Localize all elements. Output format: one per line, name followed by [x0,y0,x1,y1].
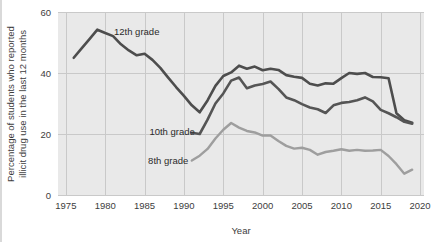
x-tick-label: 1985 [134,200,155,211]
y-tick-label: 40 [40,68,51,79]
y-axis-tick-labels: 0204060 [40,7,51,201]
x-tick-label: 1975 [55,200,76,211]
y-axis-title-line-2: illicit drug use in the last 12 months [17,30,28,178]
x-tick-label: 2015 [370,200,391,211]
y-axis-title-line-1: Percentage of students who reported [5,26,16,182]
x-tick-label: 1990 [173,200,194,211]
series-label-8th-grade: 8th grade [148,155,188,166]
x-tick-label: 2000 [252,200,273,211]
x-tick-label: 1995 [213,200,234,211]
x-tick-label: 1980 [95,200,116,211]
series-label-12th-grade: 12th grade [114,26,159,37]
x-axis-tick-labels: 1975198019851990199520002005201020152020 [55,200,430,211]
y-tick-label: 60 [40,7,51,18]
plot-background-group [58,12,424,195]
x-tick-label: 2020 [409,200,430,211]
y-tick-label: 0 [46,190,51,201]
x-tick-label: 2005 [291,200,312,211]
plot-background [58,12,424,195]
line-chart: 0204060 19751980198519901995200020052010… [0,0,437,242]
series-label-10th-grade: 10th grade [149,126,194,137]
x-tick-label: 2010 [331,200,352,211]
x-axis-title: Year [231,225,250,236]
y-tick-label: 20 [40,129,51,140]
chart-figure: 0204060 19751980198519901995200020052010… [0,0,437,242]
